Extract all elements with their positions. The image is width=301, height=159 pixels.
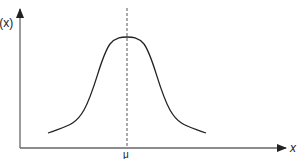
mean-tick-label: μ	[123, 149, 129, 159]
chart-canvas	[0, 0, 301, 159]
x-axis-label: x	[290, 141, 296, 155]
y-axis-label: f(x)	[0, 16, 13, 30]
